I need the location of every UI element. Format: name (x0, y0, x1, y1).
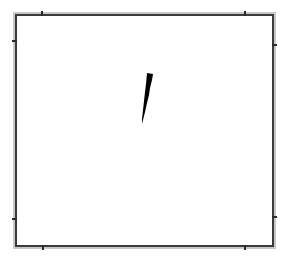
brush-stroke (142, 73, 153, 124)
brush-stroke-layer (0, 0, 286, 261)
drawing-canvas[interactable] (0, 0, 286, 261)
